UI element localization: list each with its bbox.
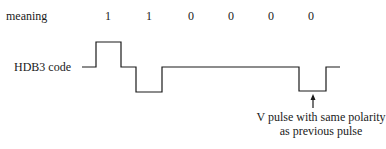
hdb3-signal-trace [82,42,340,92]
annotation-line-1: V pulse with same polarity [256,110,386,124]
v-pulse-annotation: V pulse with same polarity as previous p… [256,110,386,138]
arrow-up-icon [311,94,316,108]
annotation-line-2: as previous pulse [256,124,386,138]
